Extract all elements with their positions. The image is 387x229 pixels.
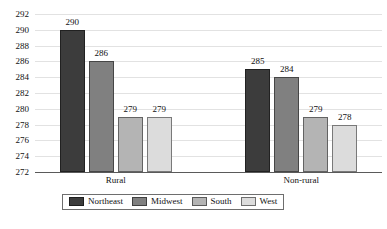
legend-swatch-icon — [132, 197, 147, 206]
y-axis-tick-label: 286 — [16, 57, 30, 66]
bar[interactable] — [147, 117, 172, 172]
axis-baseline — [35, 172, 382, 173]
bar[interactable] — [118, 117, 143, 172]
bar-item[interactable]: 286 — [89, 14, 114, 172]
y-axis-tick-label: 290 — [16, 26, 30, 35]
legend-item[interactable]: Midwest — [132, 197, 183, 206]
bar[interactable] — [60, 30, 85, 172]
chart-legend: NortheastMidwestSouthWest — [62, 194, 284, 210]
bar-item[interactable]: 290 — [60, 14, 85, 172]
bar-item[interactable]: 279 — [118, 14, 143, 172]
legend-swatch-icon — [69, 197, 84, 206]
y-axis-tick-label: 272 — [16, 168, 30, 177]
y-axis-tick-label: 276 — [16, 136, 30, 145]
bar-group: 285284279278 — [245, 14, 357, 172]
bar-item[interactable]: 284 — [274, 14, 299, 172]
bar[interactable] — [245, 69, 270, 172]
x-axis: RuralNon-rural — [35, 175, 382, 191]
y-axis-tick-label: 282 — [16, 89, 30, 98]
legend-label: South — [211, 197, 232, 206]
legend-item[interactable]: Northeast — [69, 197, 123, 206]
y-axis-tick-label: 284 — [16, 73, 30, 82]
legend-swatch-icon — [241, 197, 256, 206]
bar-value-label: 279 — [153, 105, 167, 114]
y-axis-tick-label: 292 — [16, 10, 30, 19]
legend-label: Midwest — [151, 197, 183, 206]
bar-group: 290286279279 — [60, 14, 172, 172]
legend-label: Northeast — [88, 197, 123, 206]
bar-item[interactable]: 279 — [303, 14, 328, 172]
bar-value-label: 285 — [251, 57, 265, 66]
bar-item[interactable]: 279 — [147, 14, 172, 172]
bar-value-label: 290 — [66, 18, 80, 27]
legend-label: West — [260, 197, 278, 206]
bar-value-label: 286 — [95, 49, 109, 58]
y-axis-tick-label: 274 — [16, 152, 30, 161]
bar[interactable] — [89, 61, 114, 172]
x-axis-tick-label: Rural — [106, 175, 126, 186]
bar-item[interactable]: 278 — [332, 14, 357, 172]
y-axis-tick-label: 288 — [16, 42, 30, 51]
legend-swatch-icon — [192, 197, 207, 206]
bar[interactable] — [274, 77, 299, 172]
legend-item[interactable]: West — [241, 197, 278, 206]
bar-value-label: 284 — [280, 65, 294, 74]
bar-chart: 292290288286284282280278276274272 290286… — [0, 0, 387, 229]
bar[interactable] — [332, 125, 357, 172]
bar-value-label: 279 — [124, 105, 138, 114]
y-axis-tick-label: 280 — [16, 105, 30, 114]
bar-value-label: 278 — [338, 113, 352, 122]
bar-value-label: 279 — [309, 105, 323, 114]
y-axis: 292290288286284282280278276274272 — [0, 0, 33, 176]
legend-item[interactable]: South — [192, 197, 232, 206]
x-axis-tick-label: Non-rural — [284, 175, 320, 186]
bars-layer: 290286279279285284279278 — [35, 14, 382, 172]
bar[interactable] — [303, 117, 328, 172]
bar-item[interactable]: 285 — [245, 14, 270, 172]
y-axis-tick-label: 278 — [16, 121, 30, 130]
